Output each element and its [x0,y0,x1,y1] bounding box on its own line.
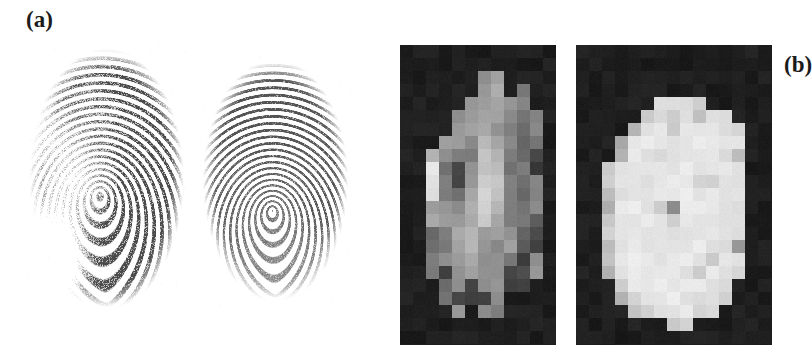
pixel-cell [543,318,556,331]
pixel-cell [758,201,771,214]
pixel-cell [517,266,530,279]
pixel-cell [517,110,530,123]
pixel-cell [491,292,504,305]
pixel-cell [706,149,719,162]
pixel-cell [693,305,706,318]
pixel-cell [589,162,602,175]
pixel-cell [719,188,732,201]
pixel-cell [719,201,732,214]
pixel-cell [413,136,426,149]
pixel-cell [517,175,530,188]
pixel-cell [413,123,426,136]
pixel-cell [706,84,719,97]
pixel-cell [530,149,543,162]
pixel-cell [426,318,439,331]
pixel-cell [654,162,667,175]
pixel-cell [426,227,439,240]
pixel-cell [719,227,732,240]
pixel-cell [478,318,491,331]
pixel-cell [706,188,719,201]
pixel-cell [654,201,667,214]
pixel-cell [654,71,667,84]
pixel-cell [732,201,745,214]
pixel-cell [589,318,602,331]
pixel-cell [706,331,719,344]
pixel-cell [602,188,615,201]
pixel-cell [615,318,628,331]
pixel-cell [465,305,478,318]
pixel-cell [641,201,654,214]
pixel-cell [543,188,556,201]
pixel-cell [667,292,680,305]
pixel-cell [530,84,543,97]
pixel-cell [745,58,758,71]
pixel-cell [543,123,556,136]
pixel-cell [589,58,602,71]
pixel-cell [628,240,641,253]
pixel-cell [680,214,693,227]
pixel-cell [517,58,530,71]
pixel-cell [667,162,680,175]
pixel-cell [706,305,719,318]
pixel-cell [413,175,426,188]
pixel-cell [667,84,680,97]
pixel-cell [589,201,602,214]
pixel-cell [745,279,758,292]
pixel-cell [706,58,719,71]
pixel-cell [478,214,491,227]
pixel-cell [667,331,680,344]
pixel-cell [517,188,530,201]
pixel-cell [504,188,517,201]
pixel-cell [732,58,745,71]
pixel-cell [400,214,413,227]
pixel-cell [745,266,758,279]
pixel-cell [426,253,439,266]
pixel-cell [400,292,413,305]
pixel-cell [504,253,517,266]
pixel-cell [543,266,556,279]
pixel-cell [589,240,602,253]
pixel-cell [615,227,628,240]
pixel-cell [478,175,491,188]
pixel-cell [400,279,413,292]
pixel-cell [641,45,654,58]
pixel-cell [426,97,439,110]
pixel-cell [413,58,426,71]
pixel-cell [543,162,556,175]
pixel-cell [693,97,706,110]
pixel-cell [465,58,478,71]
pixel-cell [758,266,771,279]
pixel-cell [693,292,706,305]
pixel-cell [576,318,589,331]
pixel-cell [602,279,615,292]
pixel-cell [615,331,628,344]
pixel-cell [758,123,771,136]
pixel-cell [426,123,439,136]
pixel-cell [517,97,530,110]
pixel-cell [706,110,719,123]
pixel-cell [758,279,771,292]
pixel-cell [602,149,615,162]
pixel-cell [413,214,426,227]
pixel-cell [426,149,439,162]
pixel-cell [465,84,478,97]
pixel-cell [680,266,693,279]
pixel-cell [615,45,628,58]
pixel-cell [465,136,478,149]
pixel-cell [758,45,771,58]
pixel-cell [693,266,706,279]
pixel-cell [517,201,530,214]
pixel-cell [589,71,602,84]
pixel-cell [732,331,745,344]
pixel-cell [732,84,745,97]
pixel-cell [439,71,452,84]
pixel-cell [517,71,530,84]
pixel-cell [589,227,602,240]
pixel-cell [576,331,589,344]
fingerprint-right-canvas [196,54,354,306]
pixel-cell [641,110,654,123]
pixel-cell [478,162,491,175]
pixel-cell [732,305,745,318]
pixel-cell [758,331,771,344]
